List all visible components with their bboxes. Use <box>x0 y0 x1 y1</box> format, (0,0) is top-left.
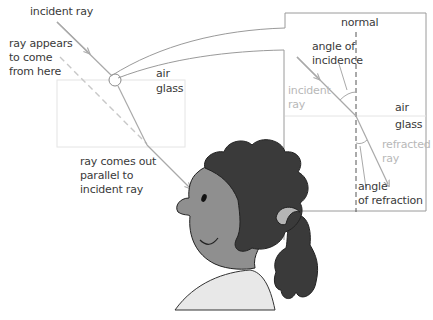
angle-refraction-label: angle of refraction <box>358 180 423 208</box>
refracted-ray-in-glass <box>118 86 147 145</box>
air-label: air <box>156 67 170 81</box>
panel-incident-ray-label: incident ray <box>288 84 331 112</box>
girl-illustration <box>175 140 318 310</box>
glass-label: glass <box>156 82 183 96</box>
angle-incidence-label: angle of incidence <box>312 40 363 68</box>
refracted-ray-label: refracted ray <box>382 138 431 166</box>
angle-incidence-arc <box>340 92 356 100</box>
girl-shirt <box>175 270 275 310</box>
panel-air-label: air <box>395 101 409 115</box>
magnifier-circle <box>109 74 121 86</box>
normal-label: normal <box>341 16 378 30</box>
exit-ray-label: ray comes out parallel to incident ray <box>80 155 156 197</box>
apparent-ray-label: ray appears to come from here <box>9 37 73 79</box>
apparent-ray-dashed <box>60 57 147 144</box>
incident-ray-label: incident ray <box>30 5 93 19</box>
angle-refraction-arc <box>356 140 367 144</box>
panel-glass-label: glass <box>395 118 422 132</box>
